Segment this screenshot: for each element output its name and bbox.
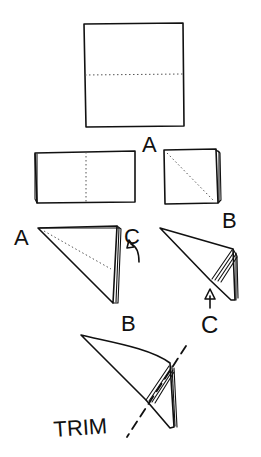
step-3-folded-square <box>164 149 221 204</box>
folding-diagram: A B A C B C <box>0 0 261 457</box>
label-a-step1: A <box>142 132 157 157</box>
step-1-square <box>84 23 184 127</box>
step-5-cone <box>160 228 238 308</box>
label-trim: TRIM <box>53 413 108 442</box>
label-b-step4: B <box>121 311 136 336</box>
step-2-rectangle <box>35 151 135 203</box>
label-b-step3: B <box>222 208 237 233</box>
label-c-step4: C <box>124 224 140 249</box>
label-c-step5: C <box>201 311 218 338</box>
label-a-step4: A <box>14 225 29 250</box>
